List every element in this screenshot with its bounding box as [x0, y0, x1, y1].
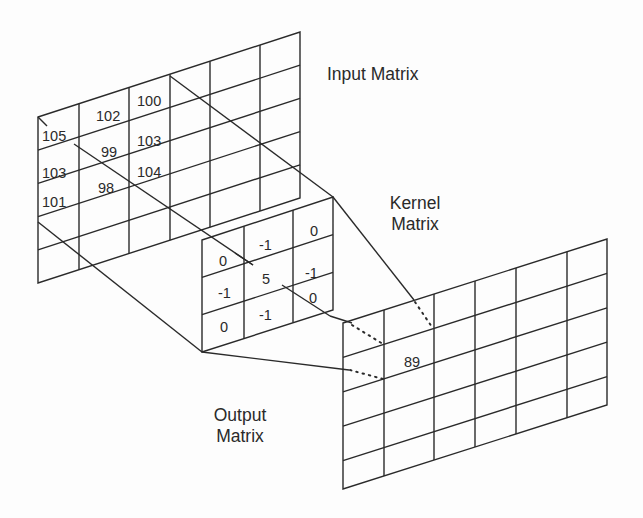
kernel-label-line1: Kernel: [384, 193, 446, 214]
input-to-kernel-projections: [38, 76, 333, 352]
input-cell-2-0: 101: [42, 194, 66, 210]
output-matrix: [343, 239, 607, 489]
kernel-cell-1-0: -1: [218, 285, 231, 301]
input-cell-2-2: 104: [137, 164, 161, 180]
output-label-line2: Matrix: [209, 426, 271, 447]
kernel-cell-0-2: 0: [310, 223, 318, 239]
kernel-cell-0-1: -1: [259, 237, 272, 253]
output-result-cell: 89: [404, 354, 420, 370]
kernel-overlay-lines: [235, 253, 330, 316]
kernel-cell-1-1: 5: [262, 271, 270, 287]
kernel-cell-2-0: 0: [220, 319, 228, 335]
kernel-matrix-label: Kernel Matrix: [384, 193, 446, 235]
input-cell-0-0: 105: [42, 128, 66, 144]
input-cell-0-2: 100: [137, 93, 161, 109]
input-matrix-label: Input Matrix: [327, 64, 418, 85]
input-cell-0-1: 102: [96, 108, 120, 124]
input-cell-1-0: 103: [42, 165, 66, 181]
input-cell-2-1: 98: [98, 180, 114, 196]
output-label-line1: Output: [209, 405, 271, 426]
kernel-label-line2: Matrix: [384, 214, 446, 235]
kernel-to-output-projections: [202, 197, 414, 370]
kernel-matrix-values: 0 -1 0 -1 5 -1 0 -1 0: [218, 223, 318, 335]
output-matrix-label: Output Matrix: [209, 405, 271, 447]
input-cell-1-1: 99: [101, 144, 117, 160]
kernel-cell-2-1: -1: [259, 307, 272, 323]
convolution-diagram: 105 102 100 103 99 103 101 98 104 0 -1 0…: [0, 0, 643, 518]
kernel-cell-0-0: 0: [219, 253, 227, 269]
kernel-cell-1-2: -1: [305, 265, 318, 281]
input-cell-1-2: 103: [137, 133, 161, 149]
